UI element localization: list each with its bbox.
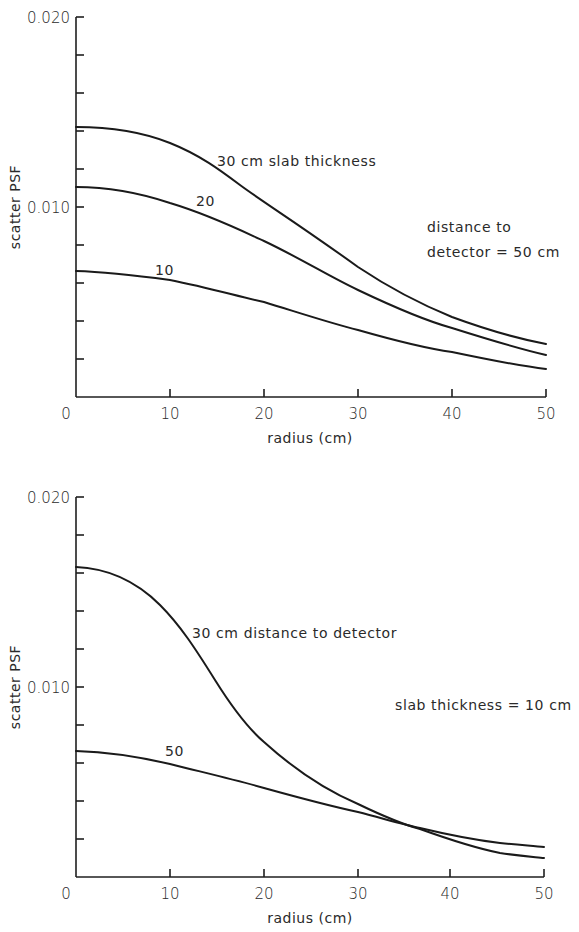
bottom-label-30cm: 30 cm distance to detector	[192, 625, 397, 641]
top-label-30cm: 30 cm slab thickness	[217, 153, 376, 169]
top-chart: 0.020 0.010 0 10 20 30 40 50 radius (cm)…	[7, 9, 560, 446]
top-label-20: 20	[196, 193, 215, 209]
top-curve-10cm	[76, 271, 546, 369]
top-ytick-0.020: 0.020	[27, 9, 70, 27]
top-curve-20cm	[76, 187, 546, 355]
bottom-xtick-40: 40	[440, 885, 459, 903]
top-xtick-20: 20	[254, 405, 273, 423]
top-annotation-line2: detector = 50 cm	[427, 244, 560, 260]
bottom-ytick-0.020: 0.020	[27, 489, 70, 507]
bottom-x-ticks	[170, 869, 544, 877]
bottom-chart: 0.020 0.010 0 10 20 30 40 50 radius (cm)…	[7, 489, 572, 926]
top-x-axis-title: radius (cm)	[267, 430, 353, 446]
bottom-curve-50cm	[76, 751, 544, 847]
bottom-ytick-0.010: 0.010	[27, 679, 70, 697]
top-xtick-50: 50	[536, 405, 555, 423]
bottom-xtick-0: 0	[61, 885, 71, 903]
top-xtick-30: 30	[348, 405, 367, 423]
bottom-xtick-10: 10	[160, 885, 179, 903]
top-xtick-0: 0	[61, 405, 71, 423]
bottom-y-ticks	[76, 497, 84, 839]
top-xtick-40: 40	[442, 405, 461, 423]
bottom-label-50: 50	[165, 743, 184, 759]
bottom-xtick-20: 20	[254, 885, 273, 903]
top-xtick-10: 10	[160, 405, 179, 423]
bottom-annotation: slab thickness = 10 cm	[395, 697, 572, 713]
top-label-10: 10	[155, 262, 174, 278]
bottom-y-axis-title: scatter PSF	[7, 645, 23, 729]
bottom-x-axis-title: radius (cm)	[267, 910, 353, 926]
bottom-xtick-30: 30	[348, 885, 367, 903]
top-ytick-0.010: 0.010	[27, 199, 70, 217]
top-x-ticks	[170, 389, 546, 397]
figure: 0.020 0.010 0 10 20 30 40 50 radius (cm)…	[0, 0, 579, 932]
top-y-axis-title: scatter PSF	[7, 165, 23, 249]
top-annotation-line1: distance to	[427, 219, 511, 235]
bottom-xtick-50: 50	[534, 885, 553, 903]
